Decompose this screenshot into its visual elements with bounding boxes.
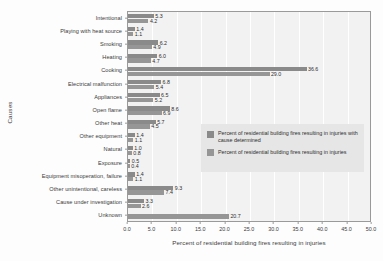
x-axis-tick-label: 15.0	[195, 226, 206, 232]
x-axis-tick-label: 35.0	[293, 226, 304, 232]
bar-row: 1.41.1	[128, 170, 370, 183]
y-axis-tick-label: Other equipment	[80, 133, 122, 139]
bar-track: 2.6	[128, 204, 370, 208]
x-axis-ticks: 0.05.010.015.020.025.030.035.040.045.050…	[127, 222, 371, 234]
legend-item: Percent of residential building fires re…	[207, 130, 359, 143]
x-axis-tick-mark	[297, 222, 298, 224]
bar-track: 4.2	[128, 19, 370, 23]
x-axis-tick-label: 10.0	[171, 226, 182, 232]
bar-track: 1.1	[128, 177, 370, 181]
plot-area: 5.34.21.41.16.24.96.04.736.629.06.85.46.…	[127, 11, 371, 222]
bar-row: 6.85.4	[128, 78, 370, 91]
x-axis-tick-label: 0.0	[123, 226, 131, 232]
bar-track: 6.0	[128, 54, 370, 58]
bar-track: 1.4	[128, 27, 370, 31]
x-axis-tick-label: 30.0	[268, 226, 279, 232]
bar	[128, 204, 141, 208]
y-axis-tick-label: Unknown	[98, 212, 122, 218]
bar-row: 9.37.4	[128, 183, 370, 196]
bar-track: 5.4	[128, 85, 370, 89]
bar-track: 3.3	[128, 199, 370, 203]
bar-value-label: 1.1	[133, 137, 142, 143]
gridline	[372, 12, 373, 221]
bar-track: 6.9	[128, 111, 370, 115]
bar-row: 6.04.7	[128, 52, 370, 65]
bar-rows: 5.34.21.41.16.24.96.04.736.629.06.85.46.…	[128, 12, 370, 221]
bar-track: 6.8	[128, 80, 370, 84]
x-axis-tick-mark	[224, 222, 225, 224]
bar-track: 1.1	[128, 32, 370, 36]
bar-track: 4.9	[128, 45, 370, 49]
bar-row: 6.55.2	[128, 91, 370, 104]
chart-legend: Percent of residential building fires re…	[201, 124, 364, 172]
x-axis-tick-mark	[273, 222, 274, 224]
bar-value-label: 0.8	[132, 150, 141, 156]
bar-value-label: 20.7	[229, 213, 241, 219]
y-axis-tick-label: Intentional	[96, 15, 122, 21]
x-axis-tick-mark	[249, 222, 250, 224]
x-axis-tick-mark	[151, 222, 152, 224]
legend-swatch-series1	[207, 131, 214, 138]
y-axis-tick-label: Other heat	[95, 120, 122, 126]
bar-track: 5.3	[128, 14, 370, 18]
bar-track: 4.7	[128, 58, 370, 62]
x-axis-title: Percent of residential building fires re…	[127, 239, 371, 246]
y-axis-tick-label: Cooking	[101, 67, 122, 73]
bar-value-label: 0.4	[130, 163, 139, 169]
x-axis-tick-label: 25.0	[244, 226, 255, 232]
legend-label-series2: Percent of residential building fires re…	[218, 149, 347, 156]
legend-swatch-series2	[207, 149, 214, 156]
y-axis-tick-label: Other unintentional, careless	[49, 186, 122, 192]
bar	[128, 58, 151, 62]
x-axis-tick-label: 40.0	[317, 226, 328, 232]
bar-value-label: 4.5	[150, 123, 159, 129]
bar-row: 36.629.0	[128, 65, 370, 78]
y-axis-tick-label: Cause under investigation	[56, 199, 122, 205]
y-axis-category-labels: IntentionalPlaying with heat sourceSmoki…	[0, 11, 125, 222]
bar-track: 6.5	[128, 93, 370, 97]
bar-value-label: 4.2	[148, 18, 157, 24]
x-axis-tick-mark	[371, 222, 372, 224]
chart-figure: Causes IntentionalPlaying with heat sour…	[0, 0, 383, 261]
y-axis-tick-label: Heating	[102, 54, 122, 60]
y-axis-tick-label: Appliances	[94, 94, 122, 100]
bar	[128, 124, 150, 128]
bar-value-label: 2.6	[141, 203, 150, 209]
y-axis-tick-label: Electrical malfunction	[68, 81, 122, 87]
y-axis-tick-label: Playing with heat source	[60, 28, 122, 34]
bar-row: 3.32.6	[128, 197, 370, 210]
x-axis-tick-mark	[175, 222, 176, 224]
bar-track: 5.2	[128, 98, 370, 102]
bar	[128, 98, 153, 102]
legend-item: Percent of residential building fires re…	[207, 149, 359, 157]
bar-row: 1.41.1	[128, 25, 370, 38]
bar-row: 6.24.9	[128, 38, 370, 51]
bar-value-label: 4.9	[152, 44, 161, 50]
bar-track: 20.7	[128, 214, 370, 218]
bar-value-label: 4.7	[151, 58, 160, 64]
bar-value-label: 6.9	[162, 110, 171, 116]
bar	[128, 72, 270, 76]
bar-track: 36.6	[128, 67, 370, 71]
x-axis-tick-label: 45.0	[341, 226, 352, 232]
x-axis-tick-mark	[322, 222, 323, 224]
bar	[128, 85, 154, 89]
bar-track: 1.4	[128, 172, 370, 176]
x-axis-tick-mark	[346, 222, 347, 224]
bar-value-label: 7.4	[164, 189, 173, 195]
bar-row: 5.34.2	[128, 12, 370, 25]
y-axis-tick-label: Equipment misoperation, failure	[42, 173, 122, 179]
bar-row: 8.66.9	[128, 104, 370, 117]
bar-value-label: 1.1	[133, 31, 142, 37]
y-axis-tick-label: Open flame	[93, 107, 122, 113]
bar-track: 6.2	[128, 40, 370, 44]
bar-value-label: 5.4	[154, 84, 163, 90]
x-axis-tick-label: 50.0	[366, 226, 377, 232]
bar	[128, 214, 229, 218]
x-axis-tick-label: 5.0	[148, 226, 156, 232]
bar	[128, 19, 148, 23]
x-axis-tick-mark	[127, 222, 128, 224]
bar-value-label: 29.0	[270, 71, 282, 77]
bar-track: 29.0	[128, 72, 370, 76]
x-axis-tick-label: 20.0	[219, 226, 230, 232]
